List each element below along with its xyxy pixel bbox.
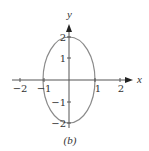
y-tick-label: 1: [60, 53, 66, 64]
x-axis-label: x: [136, 73, 142, 85]
x-tick-label: −1: [37, 83, 52, 94]
y-tick-label: −2: [51, 118, 66, 129]
x-tick-label: 1: [95, 83, 101, 94]
ellipse-diagram: −2 −1 1 2 2 1 −1 −2 x y (b): [0, 0, 149, 151]
y-axis-label: y: [66, 8, 72, 20]
x-tick-label: −2: [13, 83, 28, 94]
x-axis-arrow-icon: [125, 77, 133, 83]
figure-caption: (b): [64, 134, 77, 147]
y-tick-label: −1: [51, 97, 66, 108]
y-tick-label: 2: [60, 32, 66, 43]
x-tick-label: 2: [118, 83, 124, 94]
y-axis-arrow-icon: [66, 24, 72, 32]
